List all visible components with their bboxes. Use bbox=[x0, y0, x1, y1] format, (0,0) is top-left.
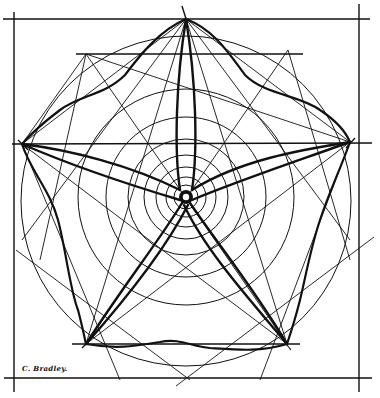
center-hub bbox=[179, 190, 193, 204]
star-construction-drawing bbox=[0, 0, 380, 398]
artist-signature: C. Bradley. bbox=[22, 364, 67, 373]
construction-lines bbox=[16, 19, 374, 386]
scalloped-outline bbox=[22, 19, 350, 350]
point-marks bbox=[18, 138, 355, 350]
